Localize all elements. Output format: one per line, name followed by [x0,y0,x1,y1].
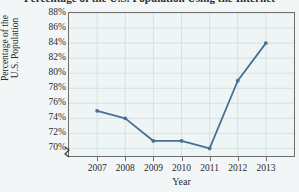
x-axis-tick-mark [153,157,154,161]
chart-figure: Percentage of the U.S. Population Using … [0,0,299,192]
x-axis-tick-mark [266,157,267,161]
x-axis-tick-mark [210,157,211,161]
x-axis-tick-label: 2013 [246,163,286,173]
x-axis-tick-mark [125,157,126,161]
x-axis-ticks: 2007200820092010201120122013 [0,0,299,192]
x-axis-tick-mark [97,157,98,161]
x-axis-label: Year [68,176,295,187]
x-axis-tick-mark [238,157,239,161]
x-axis-tick-mark [182,157,183,161]
